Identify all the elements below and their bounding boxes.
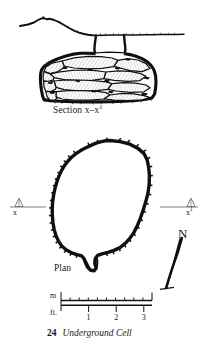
plan-drawing	[49, 138, 153, 271]
section-stone-courses	[43, 56, 150, 100]
section-caption-superscript: 1	[99, 103, 102, 110]
section-left-jamb	[94, 35, 96, 53]
ground-texture	[52, 18, 175, 35]
ground-surface-line-right	[96, 34, 184, 35]
scale-metre-ticks	[70, 297, 143, 300]
plate-artwork	[0, 0, 206, 348]
north-arrow-label: N	[178, 227, 187, 240]
plan-caption: Plan	[54, 264, 71, 274]
plan-entrance-notch	[84, 259, 90, 269]
section-chamber-outline	[40, 53, 156, 102]
plan-wall-outline	[52, 141, 149, 271]
figure-number: 24	[47, 328, 57, 338]
section-lintel	[96, 52, 125, 57]
figure-caption: 24Underground Cell	[47, 328, 132, 338]
figure-title: Underground Cell	[63, 328, 132, 338]
figure-plate: Section x–x1 Plan x x1 N m ft. 1 2 3 24U…	[0, 0, 206, 348]
section-marker-right-superscript: 1	[190, 206, 193, 212]
section-caption: Section x–x1	[53, 106, 103, 116]
section-drawing	[20, 16, 184, 104]
section-marker-left-text: x	[13, 208, 17, 217]
scale-feet-tick-3: 3	[142, 313, 146, 322]
scale-unit-feet: ft.	[50, 309, 57, 317]
section-marker-right-label: x1	[186, 209, 193, 217]
section-ground-texture	[45, 99, 152, 105]
north-arrow	[160, 238, 182, 289]
ground-surface-line	[20, 18, 96, 35]
scale-unit-metres: m	[50, 292, 56, 300]
section-caption-text: Section x–x	[53, 105, 99, 115]
scale-bar	[61, 292, 152, 312]
scale-feet-tick-2: 2	[114, 313, 118, 322]
section-line-marker-left	[10, 198, 46, 207]
scale-feet-ticks	[89, 305, 144, 312]
plan-stone-nibs	[49, 138, 153, 258]
section-chinking	[48, 58, 150, 95]
scale-feet-tick-1: 1	[87, 313, 91, 322]
section-right-jamb	[124, 35, 125, 53]
section-marker-left-label: x	[13, 209, 17, 217]
